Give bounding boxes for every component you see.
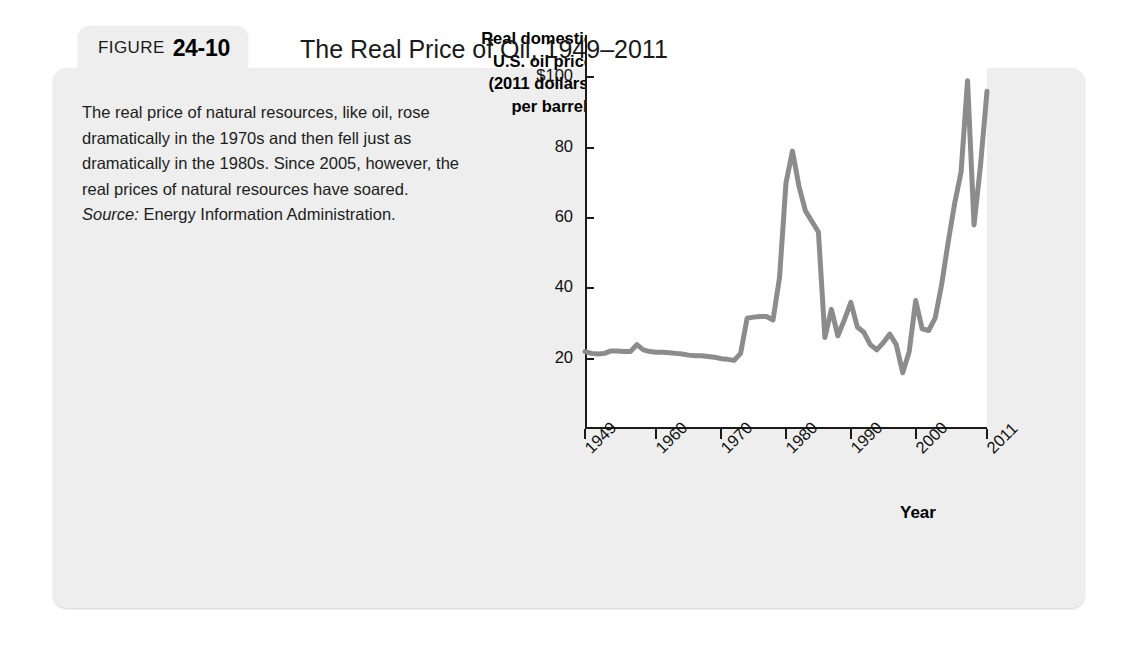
figure-title: The Real Price of Oil, 1949–2011 (300, 30, 668, 68)
x-axis-label: Year (900, 503, 936, 523)
figure-label-word: FIGURE (98, 38, 165, 58)
chart-area: Real domestic U.S. oil price (2011 dolla… (0, 0, 1032, 540)
x-tick-label: 2011 (983, 419, 1022, 458)
figure-tab: FIGURE 24-10 (78, 27, 248, 69)
y-tick-mark (585, 76, 594, 78)
y-tick-label: 60 (503, 207, 573, 226)
y-tick-label: 20 (503, 348, 573, 367)
y-tick-label: 40 (503, 277, 573, 296)
y-tick-label: $100 (503, 66, 573, 85)
y-tick-label: 80 (503, 137, 573, 156)
oil-price-line (585, 35, 987, 429)
x-tick-mark (915, 429, 917, 439)
y-tick-mark (585, 147, 594, 149)
y-axis-label-line-4: per barrel) (415, 95, 593, 118)
y-tick-mark (585, 358, 594, 360)
y-tick-mark (585, 287, 594, 289)
y-tick-mark (585, 217, 594, 219)
figure-number: 24-10 (173, 35, 230, 62)
